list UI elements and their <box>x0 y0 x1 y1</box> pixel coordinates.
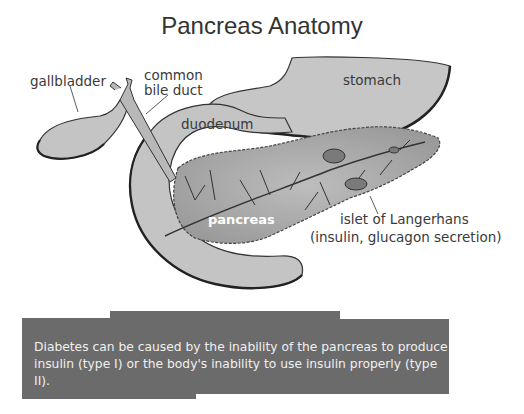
caption-text: Diabetes can be caused by the inability … <box>34 339 454 390</box>
